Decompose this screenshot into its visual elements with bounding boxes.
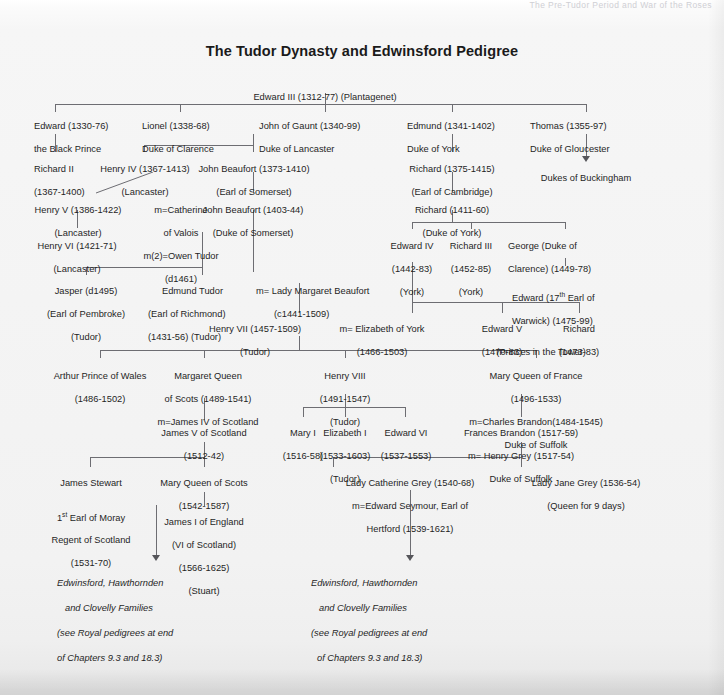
node-warwick-line1-b: Earl of bbox=[565, 293, 594, 303]
node-warwick-line1-a: Edward (17 bbox=[512, 293, 560, 303]
node-henry8-line1: Henry VIII bbox=[300, 371, 390, 382]
node-john-beaufort-duke: John Beaufort (1403-44) (Duke of Somerse… bbox=[190, 194, 316, 251]
node-catherine-line3: m(2)=Owen Tudor bbox=[130, 251, 232, 262]
page-edge-shadow-right bbox=[708, 0, 724, 695]
node-henry6-line2: (Lancaster) bbox=[28, 264, 126, 275]
node-thomas-gloucester: Thomas (1355-97) Duke of Gloucester bbox=[530, 110, 660, 167]
node-warwick-line1: Edward (17th Earl of bbox=[512, 281, 642, 304]
node-henry6-line1: Henry VI (1421-71) bbox=[28, 241, 126, 252]
node-edwinsfordR-line3: (see Royal pedigrees at end bbox=[311, 627, 491, 639]
node-richardprince-line1: Richard bbox=[547, 324, 611, 335]
node-ryork-line1: Richard (1411-60) bbox=[398, 205, 506, 216]
node-henry7-line1: Henry VII (1457-1509) bbox=[190, 324, 320, 335]
page-title: The Tudor Dynasty and Edwinsford Pedigre… bbox=[0, 43, 724, 59]
node-edwinsfordR-line4: of Chapters 9.3 and 18.3) bbox=[311, 652, 491, 664]
node-elizyork-line2: (1466-1503) bbox=[320, 347, 444, 358]
node-jbeaufort2-line1: John Beaufort (1403-44) bbox=[190, 205, 316, 216]
node-elizabeth1-line2: (1533-1603) bbox=[313, 451, 377, 462]
node-catherinegrey-line3: Hertford (1539-1621) bbox=[320, 524, 500, 535]
node-richard-iii: Richard III (1452-85) (York) bbox=[441, 230, 501, 310]
node-henry4-line1: Henry IV (1367-1413) bbox=[96, 164, 194, 175]
connector-down-edward5 bbox=[502, 302, 503, 313]
node-margaretscots-line1: Margaret Queen bbox=[140, 371, 276, 382]
node-margaretb-line1: m= Lady Margaret Beaufort bbox=[256, 286, 406, 297]
node-dukes-of-buckingham: Dukes of Buckingham bbox=[521, 162, 651, 196]
node-buckingham-line1: Dukes of Buckingham bbox=[521, 173, 651, 184]
node-jasper-line3: (Tudor) bbox=[30, 332, 142, 343]
node-edward4-line1: Edward IV bbox=[380, 241, 444, 252]
node-black-prince-line1: Edward (1330-76) bbox=[34, 121, 154, 132]
node-edward4-line2: (1442-83) bbox=[380, 264, 444, 275]
node-gaunt-line1: John of Gaunt (1340-99) bbox=[259, 121, 399, 132]
node-jamesstewart-line2: 1st Earl of Moray bbox=[32, 501, 150, 524]
connector-down-edward6 bbox=[405, 407, 406, 417]
connector-down-james-stewart bbox=[90, 457, 91, 467]
node-edwinsfordR-line1: Edwinsford, Hawthornden bbox=[311, 577, 491, 589]
node-jasper-tudor: Jasper (d1495) (Earl of Pembroke) (Tudor… bbox=[30, 275, 142, 355]
node-edwinsford-left: Edwinsford, Hawthornden and Clovelly Fam… bbox=[57, 565, 237, 677]
node-frances-line1: Frances Brandon (1517-59) bbox=[445, 428, 597, 439]
node-jbeaufort1-line1: John Beaufort (1373-1410) bbox=[188, 164, 320, 175]
node-edward-vi: Edward VI (1537-1553) bbox=[374, 417, 438, 474]
node-edmund-line1: Edmund (1341-1402) bbox=[407, 121, 527, 132]
node-princes-line1: (Princes in the Tower) bbox=[470, 347, 612, 358]
node-maryfrance-line2: (1496-1533) bbox=[450, 394, 622, 405]
node-edward-iii-line1: Edward III (1312-77) (Plantagenet) bbox=[205, 92, 445, 103]
node-james5-line1: James V of Scotland bbox=[140, 428, 268, 439]
node-edwinsfordL-line3: (see Royal pedigrees at end bbox=[57, 627, 237, 639]
node-edwinsfordL-line1: Edwinsford, Hawthornden bbox=[57, 577, 237, 589]
node-james1-line2: (VI of Scotland) bbox=[140, 540, 268, 551]
node-jasper-line1: Jasper (d1495) bbox=[30, 286, 142, 297]
node-richard3-line1: Richard III bbox=[441, 241, 501, 252]
node-henry7-line2: (Tudor) bbox=[190, 347, 320, 358]
node-catherinegrey-line1: Lady Catherine Grey (1540-68) bbox=[320, 478, 500, 489]
node-james-v-of-scotland: James V of Scotland (1512-42) bbox=[140, 417, 268, 474]
node-george-line1: George (Duke of bbox=[508, 241, 628, 252]
node-james5-line2: (1512-42) bbox=[140, 451, 268, 462]
node-edwinsford-right: Edwinsford, Hawthornden and Clovelly Fam… bbox=[311, 565, 491, 677]
node-henry5-line1: Henry V (1386-1422) bbox=[28, 205, 128, 216]
node-james-stewart: James Stewart 1st Earl of Moray Regent o… bbox=[32, 467, 150, 581]
node-lady-catherine-grey: Lady Catherine Grey (1540-68) m=Edward S… bbox=[320, 467, 500, 547]
node-janegrey-line2: (Queen for 9 days) bbox=[508, 501, 664, 512]
node-jasper-line2: (Earl of Pembroke) bbox=[30, 309, 142, 320]
node-edwinsfordR-line2: and Clovelly Families bbox=[311, 602, 491, 614]
node-edwinsfordL-line2: and Clovelly Families bbox=[57, 602, 237, 614]
node-jamesstewart-line1: James Stewart bbox=[32, 478, 150, 489]
node-margaretscots-line2: of Scots (1489-1541) bbox=[140, 394, 276, 405]
node-jamesstewart-line2-b: Earl of Moray bbox=[67, 513, 125, 523]
node-thomas-line2: Duke of Gloucester bbox=[530, 144, 660, 155]
page-edge-shadow-bottom bbox=[0, 669, 724, 695]
node-jamesstewart-line3: Regent of Scotland bbox=[32, 535, 150, 546]
node-edward6-line1: Edward VI bbox=[374, 428, 438, 439]
pedigree-chart-page: The Pre-Tudor Period and War of the Rose… bbox=[0, 0, 724, 695]
node-edward5-line1: Edward V bbox=[470, 324, 534, 335]
node-richard3-line3: (York) bbox=[441, 287, 501, 298]
node-jbeaufort2-line2: (Duke of Somerset) bbox=[190, 228, 316, 239]
node-elizyork-line1: m= Elizabeth of York bbox=[320, 324, 444, 335]
node-edwinsfordL-line4: of Chapters 9.3 and 18.3) bbox=[57, 652, 237, 664]
running-head: The Pre-Tudor Period and War of the Rose… bbox=[352, 1, 712, 10]
node-rcambridge-line1: Richard (1375-1415) bbox=[391, 164, 513, 175]
node-james1-line1: James I of England bbox=[140, 517, 268, 528]
node-maryqs-line1: Mary Queen of Scots bbox=[140, 478, 268, 489]
connector-down-george bbox=[565, 222, 566, 229]
node-janegrey-line1: Lady Jane Grey (1536-54) bbox=[508, 478, 664, 489]
node-henry8-line2: (1491-1547) bbox=[300, 394, 390, 405]
node-edward6-line2: (1537-1553) bbox=[374, 451, 438, 462]
node-lady-jane-grey: Lady Jane Grey (1536-54) (Queen for 9 da… bbox=[508, 467, 664, 524]
node-richard3-line2: (1452-85) bbox=[441, 264, 501, 275]
node-frances-line2: m= Henry Grey (1517-54) bbox=[445, 451, 597, 462]
node-maryfrance-line1: Mary Queen of France bbox=[450, 371, 622, 382]
node-catherinegrey-line2: m=Edward Seymour, Earl of bbox=[320, 501, 500, 512]
node-edmundtudor-line1: Edmund Tudor bbox=[148, 286, 258, 297]
node-lionel-line1: Lionel (1338-68) bbox=[142, 121, 260, 132]
node-elizabeth1-line1: Elizabeth I bbox=[313, 428, 377, 439]
node-thomas-line1: Thomas (1355-97) bbox=[530, 121, 660, 132]
arrow-to-edwinsford-right bbox=[406, 555, 414, 561]
